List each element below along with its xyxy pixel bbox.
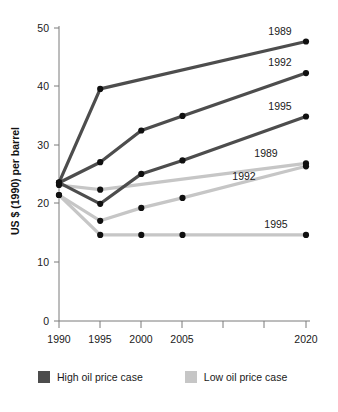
x-tick-label-2005: 2005 [170,333,194,345]
data-point-low-1995-2005 [179,232,185,238]
data-point-high-1992-2000 [138,127,144,133]
x-tick-label-2000: 2000 [129,333,153,345]
x-tick-label-2020: 2020 [294,333,318,345]
legend-swatch-low-icon [185,371,197,383]
legend-label-high: High oil price case [57,371,143,383]
data-point-low-1995-1990 [56,192,62,198]
series-line-high-1992 [59,73,306,183]
data-point-high-1995-2020 [303,113,309,119]
y-tick-label-40: 40 [37,80,49,92]
y-tick-label-20: 20 [37,197,49,209]
data-point-low-1995-2020 [303,232,309,238]
data-point-high-1995-2005 [179,157,185,163]
legend-item-low-oil-price[interactable]: Low oil price case [185,371,287,383]
data-point-low-1992-2020 [303,163,309,169]
series-end-label-low-1989: 1989 [254,147,278,159]
data-point-low-1992-1995 [97,218,103,224]
series-end-label-low-1995: 1995 [264,218,288,230]
y-tick-label-30: 30 [37,139,49,151]
y-tick-label-10: 10 [37,256,49,268]
series-line-low-1992 [59,166,306,221]
data-point-low-1992-2000 [138,205,144,211]
legend-item-high-oil-price[interactable]: High oil price case [38,371,143,383]
series-layer [56,38,309,238]
data-point-low-1995-2000 [138,232,144,238]
chart-legend: High oil price case Low oil price case [0,366,338,388]
y-axis-title: US $ (1990) per barrel [9,127,21,235]
data-point-low-1989-1995 [97,187,103,193]
data-point-high-1995-1990 [56,180,62,186]
x-tick-label-1990: 1990 [47,333,71,345]
series-end-label-high-1992: 1992 [268,56,292,68]
series-end-label-high-1989: 1989 [268,25,292,37]
y-tick-label-50: 50 [37,22,49,34]
data-point-high-1992-1995 [97,159,103,165]
data-point-high-1995-2000 [138,171,144,177]
y-tick-label-0: 0 [43,315,49,327]
data-point-high-1995-1995 [97,201,103,207]
x-tick-label-1995: 1995 [88,333,112,345]
data-point-high-1992-2005 [179,113,185,119]
legend-swatch-high-icon [38,371,50,383]
oil-price-chart: 50 40 30 20 10 0 US $ (1990) per barrel … [0,0,338,412]
data-point-high-1989-2020 [303,38,309,44]
data-point-low-1995-1995 [97,232,103,238]
series-end-label-low-1992: 1992 [232,170,256,182]
data-point-low-1992-2005 [179,195,185,201]
data-point-high-1992-2020 [303,70,309,76]
series-end-label-high-1995: 1995 [268,100,292,112]
legend-label-low: Low oil price case [204,371,287,383]
data-point-high-1989-1995 [97,86,103,92]
chart-plot-area: 50 40 30 20 10 0 US $ (1990) per barrel … [0,0,338,412]
